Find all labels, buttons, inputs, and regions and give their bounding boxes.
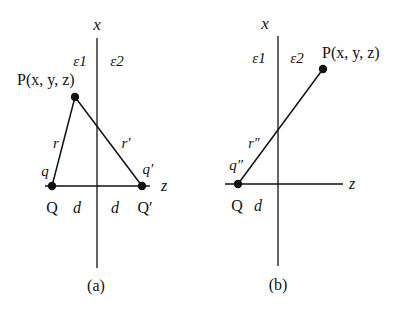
panel-b-distance-r-double-prime-label: r″ — [248, 136, 259, 151]
panel-b-line-r-double-prime — [238, 69, 323, 184]
panel-a-epsilon2-label: ε2 — [110, 53, 124, 69]
panel-a-point-p-label: P(x, y, z) — [17, 71, 75, 89]
panel-a: x ε1 ε2 P(x, y, z) r r′ q q′ z Q d d Q′ … — [17, 15, 168, 295]
panel-b-caption: (b) — [269, 276, 288, 294]
panel-a-offset-d-left: d — [73, 199, 82, 216]
panel-a-charge-q-dot — [48, 182, 56, 190]
panel-b-x-axis-label: x — [260, 14, 269, 33]
panel-a-point-p-dot — [71, 93, 79, 101]
panel-a-distance-r-label: r — [53, 135, 59, 151]
panel-a-charge-q-prime-dot — [138, 182, 146, 190]
panel-a-distance-r-prime-label: r′ — [121, 135, 131, 151]
panel-a-z-axis-label: z — [160, 177, 168, 194]
panel-b-z-axis-label: z — [348, 175, 356, 192]
panel-a-q-name: Q — [46, 199, 58, 216]
image-charge-diagram: x ε1 ε2 P(x, y, z) r r′ q q′ z Q d d Q′ … — [0, 0, 415, 318]
panel-a-q-prime-name: Q′ — [137, 199, 152, 216]
panel-b-point-p-dot — [319, 65, 327, 73]
panel-b-epsilon1-label: ε1 — [252, 50, 265, 66]
panel-a-caption: (a) — [87, 277, 105, 295]
panel-a-x-axis-label: x — [92, 15, 101, 34]
panel-a-epsilon1-label: ε1 — [73, 53, 86, 69]
panel-b-offset-d: d — [254, 197, 263, 214]
panel-a-line-r-prime — [75, 97, 142, 186]
panel-a-charge-q-label: q — [41, 163, 49, 179]
panel-b-charge-q-dot — [234, 180, 242, 188]
panel-a-charge-q-prime-label: q′ — [143, 161, 155, 177]
panel-b: x ε1 ε2 P(x, y, z) r″ q″ z Q d (b) — [225, 14, 380, 294]
panel-b-q-name: Q — [231, 197, 243, 214]
panel-b-point-p-label: P(x, y, z) — [322, 44, 380, 62]
panel-b-charge-q-double-prime-label: q″ — [229, 157, 244, 173]
panel-a-offset-d-right: d — [111, 199, 120, 216]
panel-b-epsilon2-label: ε2 — [290, 50, 304, 66]
